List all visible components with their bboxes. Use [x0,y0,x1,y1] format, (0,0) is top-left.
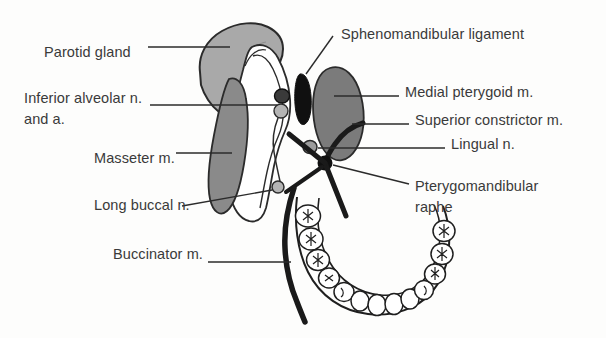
label-long-buccal: Long buccal n. [94,197,190,214]
inferior-alveolar-artery-shape [274,104,288,118]
label-sphenomandibular: Sphenomandibular ligament [341,26,524,43]
label-inferior-alveolar-line2: and a. [24,111,65,128]
tooth-incisor [385,294,403,315]
tooth-incisor [351,291,369,311]
label-superior-constrictor: Superior constrictor m. [415,112,563,129]
sphenomandibular-ligament-shape [295,74,312,125]
leader-pterygomandibular-raphe [333,165,409,184]
label-lingual-nerve: Lingual n. [451,136,515,153]
label-pterygomandibular-line2: raphe [415,199,453,216]
label-inferior-alveolar: Inferior alveolar n. [24,90,142,107]
teeth-group [296,205,456,316]
anatomy-figure: Parotid gland Inferior alveolar n. and a… [0,0,606,338]
label-medial-pterygoid: Medial pterygoid m. [405,84,533,101]
pterygomandibular-raphe-ray-down [325,163,346,216]
tooth-incisor [368,295,386,316]
label-masseter: Masseter m. [94,150,175,167]
long-buccal-nerve-shape [272,181,284,193]
label-buccinator: Buccinator m. [113,246,203,263]
label-pterygomandibular: Pterygomandibular [415,178,538,195]
inferior-alveolar-nerve-shape [275,89,290,103]
label-parotid-gland: Parotid gland [44,44,131,61]
medial-pterygoid-muscle-shape [313,67,364,160]
